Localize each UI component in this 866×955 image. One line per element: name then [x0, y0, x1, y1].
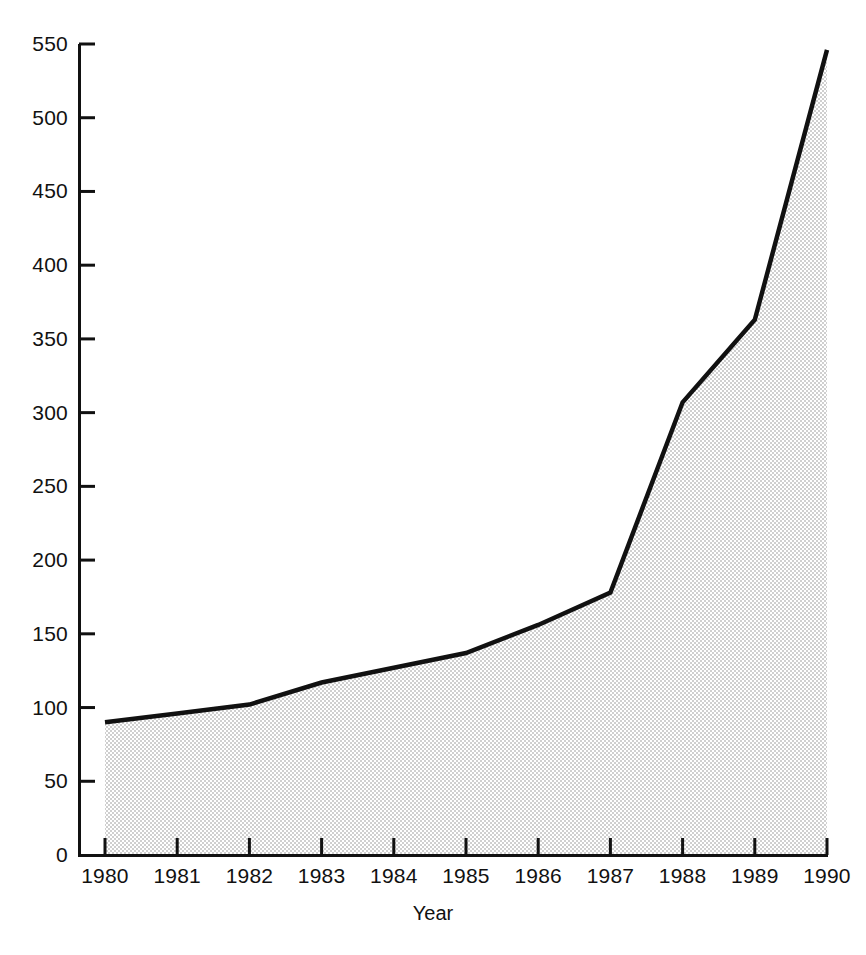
area-fill-region: [105, 50, 827, 855]
area-chart-plot: [0, 0, 866, 955]
chart-container: 050100150200250300350400450500550 198019…: [0, 0, 866, 955]
x-axis-title: Year: [0, 902, 866, 925]
y-axis-ticks: [79, 44, 95, 855]
